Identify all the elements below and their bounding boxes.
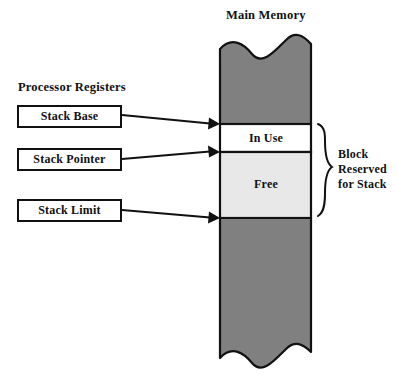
memory-block-bottom-dark bbox=[220, 218, 311, 368]
block-reserved-line-2: Reserved bbox=[338, 162, 387, 177]
arrow-stack-pointer bbox=[122, 146, 220, 160]
arrow-stack-base bbox=[122, 115, 220, 130]
stack-memory-diagram: Main Memory Processor Registers Stack Ba… bbox=[0, 0, 397, 382]
memory-section-label-in-use: In Use bbox=[220, 131, 312, 146]
memory-block-top-dark bbox=[220, 35, 311, 124]
register-label-stack-limit: Stack Limit bbox=[19, 201, 120, 220]
register-box-stack-pointer: Stack Pointer bbox=[17, 148, 122, 171]
register-box-stack-limit: Stack Limit bbox=[17, 199, 122, 222]
block-reserved-line-1: Block bbox=[338, 147, 387, 162]
block-reserved-line-3: for Stack bbox=[338, 177, 387, 192]
block-reserved-for-stack-label: Block Reserved for Stack bbox=[338, 147, 387, 192]
processor-registers-title: Processor Registers bbox=[18, 80, 126, 94]
memory-section-label-free: Free bbox=[220, 177, 312, 192]
block-reserved-brace bbox=[318, 124, 332, 216]
register-label-stack-pointer: Stack Pointer bbox=[19, 150, 120, 169]
register-box-stack-base: Stack Base bbox=[17, 105, 122, 128]
register-label-stack-base: Stack Base bbox=[19, 107, 120, 126]
arrow-stack-limit bbox=[122, 210, 220, 224]
main-memory-title: Main Memory bbox=[226, 8, 306, 22]
